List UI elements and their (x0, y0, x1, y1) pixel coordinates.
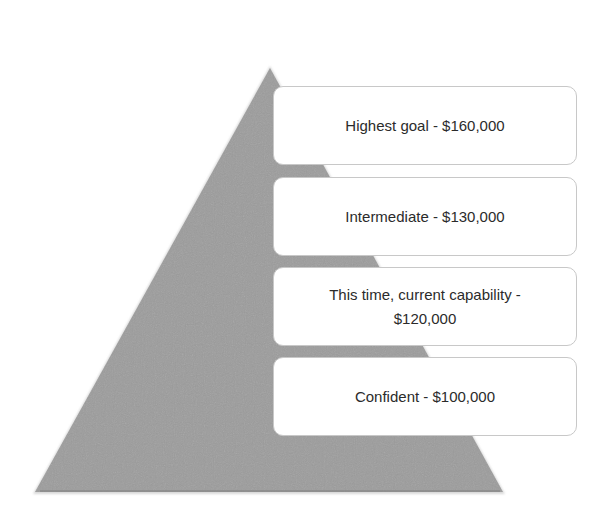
level-label: Intermediate - $130,000 (345, 205, 504, 229)
pyramid-level-intermediate: Intermediate - $130,000 (273, 177, 577, 256)
pyramid-level-current-capability: This time, current capability - $120,000 (273, 267, 577, 346)
pyramid-shape (0, 0, 614, 523)
level-label: Highest goal - $160,000 (345, 114, 504, 138)
pyramid-level-confident: Confident - $100,000 (273, 357, 577, 436)
pyramid-diagram: Highest goal - $160,000 Intermediate - $… (0, 0, 614, 523)
pyramid-level-highest-goal: Highest goal - $160,000 (273, 86, 577, 165)
level-label: Confident - $100,000 (355, 385, 495, 409)
level-label: This time, current capability - $120,000 (325, 283, 525, 331)
